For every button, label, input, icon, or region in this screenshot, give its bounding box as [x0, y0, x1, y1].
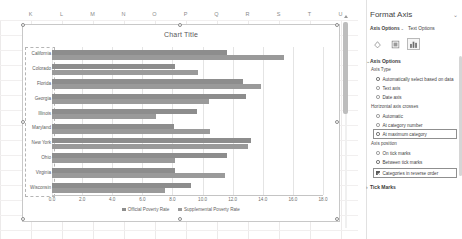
group-label-horizontal-axis-crosses: Horizontal axis crosses: [371, 104, 418, 109]
bar-illinois-series1[interactable]: [52, 109, 197, 114]
axis-options-icon[interactable]: [407, 38, 420, 50]
column-header-n[interactable]: N: [108, 9, 139, 20]
option-label: On tick marks: [383, 151, 411, 156]
chart-legend[interactable]: Official Poverty RateSupplemental Povert…: [23, 207, 339, 212]
bar-new-york-series2[interactable]: [52, 144, 248, 149]
bar-wisconsin-series2[interactable]: [52, 188, 165, 193]
resize-handle-bottom-left[interactable]: [21, 217, 25, 221]
radio-icon[interactable]: [376, 86, 380, 90]
option-automatically-select-based-on-data[interactable]: Automatically select based on data: [376, 75, 454, 83]
section-header-tick-marks[interactable]: ›Tick Marks: [370, 184, 396, 190]
radio-icon[interactable]: [376, 123, 380, 127]
bar-georgia-series2[interactable]: [52, 99, 209, 104]
bar-california-series1[interactable]: [52, 50, 227, 55]
option-on-tick-marks[interactable]: On tick marks: [376, 149, 411, 157]
pane-title: Format Axis: [370, 10, 412, 19]
resize-handle-middle-left[interactable]: [21, 120, 25, 124]
resize-handle-top-right[interactable]: [335, 23, 339, 27]
pane-tab-bar[interactable]: Axis Options⌄Text Options: [370, 26, 435, 31]
radio-icon[interactable]: [376, 151, 380, 155]
pane-tab-text-options[interactable]: Text Options: [408, 26, 435, 31]
resize-handle-top-left[interactable]: [21, 23, 25, 27]
grid-line-horizontal: [0, 20, 358, 21]
scroll-up-arrow-icon[interactable]: [344, 15, 348, 18]
effects-icon[interactable]: [389, 38, 402, 50]
radio-icon[interactable]: [376, 95, 380, 99]
section-header-axis-options[interactable]: ⌄Axis Options: [370, 58, 401, 64]
legend-item-2[interactable]: Supplemental Poverty Rate: [178, 207, 239, 212]
category-label-wisconsin: Wisconsin: [30, 185, 51, 191]
fill-line-icon[interactable]: [371, 38, 384, 50]
bar-ohio-series1[interactable]: [52, 153, 227, 158]
legend-item-1[interactable]: Official Poverty Rate: [122, 207, 169, 212]
category-label-georgia: Georgia: [35, 96, 51, 102]
column-header-p[interactable]: P: [170, 9, 201, 20]
group-label-axis-type: Axis Type: [371, 67, 391, 72]
option-between-tick-marks[interactable]: Between tick marks: [376, 158, 422, 166]
bar-virginia-series2[interactable]: [52, 173, 225, 178]
bar-virginia-series1[interactable]: [52, 168, 175, 173]
x-tick-label: 16.0: [288, 197, 297, 202]
bar-georgia-series1[interactable]: [52, 94, 246, 99]
option-label: Automatic: [383, 114, 403, 119]
column-header-u[interactable]: U: [325, 9, 356, 20]
column-header-s[interactable]: S: [263, 9, 294, 20]
chevron-right-icon[interactable]: ›: [366, 184, 368, 190]
column-header-o[interactable]: O: [139, 9, 170, 20]
column-header-r[interactable]: R: [232, 9, 263, 20]
bar-ohio-series2[interactable]: [52, 158, 175, 163]
option-label: Text axis: [383, 86, 401, 91]
category-label-new-york: New York: [32, 140, 51, 146]
bar-florida-series1[interactable]: [52, 79, 243, 84]
category-axis-labels[interactable]: CaliforniaColoradoFloridaGeorgiaIllinois…: [23, 47, 54, 195]
bar-florida-series2[interactable]: [52, 84, 261, 89]
resize-handle-top-center[interactable]: [178, 23, 182, 27]
column-header-l[interactable]: L: [46, 9, 77, 20]
option-automatic[interactable]: Automatic: [376, 112, 403, 120]
column-header-k[interactable]: K: [15, 9, 46, 20]
bar-wisconsin-series1[interactable]: [52, 183, 191, 188]
column-header-t[interactable]: T: [294, 9, 325, 20]
highlight-box: [373, 168, 457, 178]
x-tick-label: 0.0: [49, 197, 55, 202]
bar-maryland-series1[interactable]: [52, 124, 174, 129]
option-at-category-number[interactable]: At category number: [376, 121, 423, 129]
section-header-label: Tick Marks: [370, 184, 396, 190]
resize-handle-middle-right[interactable]: [335, 120, 339, 124]
option-text-axis[interactable]: Text axis: [376, 84, 400, 92]
radio-icon[interactable]: [376, 160, 380, 164]
value-axis-tick-labels[interactable]: 0.02.04.06.08.010.012.014.016.018.0: [52, 195, 323, 205]
close-icon[interactable]: ⌄: [453, 11, 458, 18]
scrollbar-thumb[interactable]: [343, 22, 348, 114]
bar-california-series2[interactable]: [52, 55, 284, 60]
pane-icon-bar[interactable]: [371, 38, 420, 50]
bar-illinois-series2[interactable]: [52, 114, 156, 119]
column-header-m[interactable]: M: [77, 9, 108, 20]
spreadsheet-area[interactable]: KLMNOPQRSTU Chart Title CaliforniaColora…: [0, 0, 358, 239]
radio-icon[interactable]: [376, 77, 380, 81]
resize-handle-bottom-center[interactable]: [178, 217, 182, 221]
chart-object[interactable]: Chart Title CaliforniaColoradoFloridaGeo…: [22, 24, 340, 222]
bar-maryland-series2[interactable]: [52, 129, 210, 134]
x-tick-label: 10.0: [198, 197, 207, 202]
column-header-q[interactable]: Q: [201, 9, 232, 20]
bar-new-york-series1[interactable]: [52, 138, 251, 143]
plot-area[interactable]: [52, 47, 323, 195]
option-date-axis[interactable]: Date axis: [376, 93, 402, 101]
chart-title[interactable]: Chart Title: [23, 31, 339, 38]
x-tick-label: 12.0: [228, 197, 237, 202]
category-label-california: California: [32, 51, 51, 57]
chevron-down-icon[interactable]: ⌄: [401, 26, 405, 31]
grid-line-horizontal: [0, 230, 358, 231]
bar-colorado-series1[interactable]: [52, 64, 175, 69]
category-label-illinois: Illinois: [38, 111, 51, 117]
pane-tab-axis-options[interactable]: Axis Options⌄: [370, 26, 404, 31]
format-axis-pane[interactable]: Format Axis ⌄ Axis Options⌄Text Options: [366, 0, 462, 239]
sheet-vertical-scrollbar[interactable]: [343, 22, 348, 228]
bar-colorado-series2[interactable]: [52, 70, 198, 75]
resize-handle-bottom-right[interactable]: [335, 217, 339, 221]
x-tick-label: 4.0: [109, 197, 115, 202]
radio-icon[interactable]: [376, 114, 380, 118]
category-label-maryland: Maryland: [32, 125, 51, 131]
chevron-down-icon[interactable]: ⌄: [366, 58, 370, 64]
